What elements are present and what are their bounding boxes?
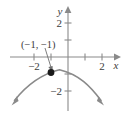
y-axis <box>65 6 72 111</box>
graph-figure: −2 2 2 −2 y x (−1, −1) <box>0 0 125 113</box>
y-tick-label-minus-2: −2 <box>50 85 62 97</box>
x-tick-label-minus-2: −2 <box>28 60 40 72</box>
plotted-point <box>48 69 55 76</box>
x-tick-label-2: 2 <box>99 60 105 72</box>
point-annotation-label: (−1, −1) <box>21 39 56 51</box>
coordinate-plane-svg: −2 2 2 −2 y x (−1, −1) <box>0 0 125 113</box>
y-axis-arrowhead <box>65 6 72 13</box>
x-axis-label: x <box>113 59 119 71</box>
y-tick-label-2: 2 <box>57 17 63 29</box>
y-axis-label: y <box>57 5 63 17</box>
